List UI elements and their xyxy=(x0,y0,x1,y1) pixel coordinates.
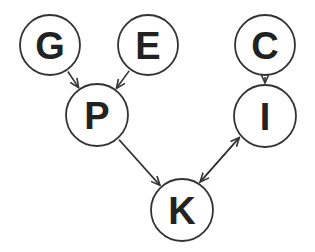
node-label: I xyxy=(260,96,271,138)
node-label: G xyxy=(35,25,65,67)
node-label: P xyxy=(84,95,109,137)
diagram-canvas: GECPIK xyxy=(0,0,315,252)
edge-g-to-p-arrow-icon xyxy=(68,72,79,88)
node-label: C xyxy=(251,25,278,67)
node-label: E xyxy=(135,25,160,67)
node-i: I xyxy=(234,85,296,147)
edge-k-to-i-arrow-icon xyxy=(200,137,239,182)
nodes-group: GECPIK xyxy=(20,15,296,241)
node-label: K xyxy=(168,190,196,232)
node-p: P xyxy=(66,84,128,146)
edge-p-to-k-arrow-icon xyxy=(119,140,160,186)
node-g: G xyxy=(20,15,80,75)
node-k: K xyxy=(151,179,213,241)
edge-e-to-p-arrow-icon xyxy=(116,71,129,88)
graph-svg: GECPIK xyxy=(0,0,315,252)
node-e: E xyxy=(118,15,178,75)
node-c: C xyxy=(235,15,295,75)
